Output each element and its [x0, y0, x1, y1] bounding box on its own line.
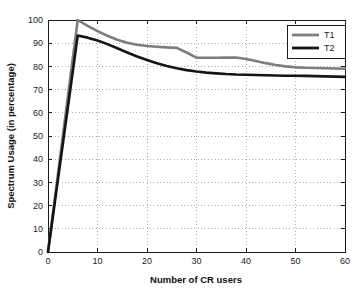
- y-tick-label: 40: [33, 154, 43, 164]
- x-tick-label: 50: [290, 256, 300, 266]
- x-tick-label: 10: [92, 256, 102, 266]
- y-tick-label: 80: [33, 62, 43, 72]
- legend-label-t2: T2: [324, 43, 335, 53]
- x-tick-label: 20: [142, 256, 152, 266]
- y-tick-label: 100: [28, 15, 43, 25]
- legend-box: [287, 25, 345, 58]
- legend-label-t1: T1: [324, 30, 335, 40]
- y-tick-label: 10: [33, 224, 43, 234]
- y-tick-label: 70: [33, 85, 43, 95]
- figure-canvas: 0102030405060708090100 0102030405060 T1T…: [0, 0, 360, 290]
- x-axis-title: Number of CR users: [150, 274, 242, 285]
- x-tick-label: 0: [45, 256, 50, 266]
- y-tick-label: 90: [33, 38, 43, 48]
- y-tick-label: 60: [33, 108, 43, 118]
- chart-figure: 0102030405060708090100 0102030405060 T1T…: [0, 0, 360, 290]
- x-tick-label: 30: [191, 256, 201, 266]
- y-axis-title: Spectrum Usage (in percentage): [5, 63, 16, 209]
- y-tick-label: 50: [33, 131, 43, 141]
- line-chart-svg: 0102030405060708090100 0102030405060 T1T…: [0, 0, 360, 290]
- x-tick-label: 40: [241, 256, 251, 266]
- y-tick-label: 20: [33, 201, 43, 211]
- y-tick-label: 30: [33, 178, 43, 188]
- chart-legend: T1T2: [287, 25, 345, 58]
- y-tick-label: 0: [38, 247, 43, 257]
- x-tick-label: 60: [340, 256, 350, 266]
